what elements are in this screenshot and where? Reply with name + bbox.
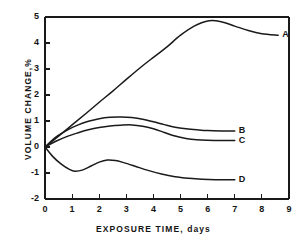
y-tick-label: 2 <box>23 89 39 99</box>
x-axis-title: EXPOSURE TIME, days <box>0 224 307 234</box>
x-tick-label: 0 <box>37 204 53 214</box>
x-tick-label: 2 <box>91 204 107 214</box>
series-label-c: C <box>239 135 246 145</box>
series-label-d: D <box>239 174 246 184</box>
series-line-d <box>45 147 235 180</box>
y-axis-title: VOLUME CHANGE,% <box>23 34 33 184</box>
x-tick-label: 7 <box>227 204 243 214</box>
y-tick-label: 1 <box>23 115 39 125</box>
data-series-group <box>45 21 278 180</box>
y-tick-label: -2 <box>23 193 39 203</box>
y-tick-label: 0 <box>23 141 39 151</box>
series-label-b: B <box>239 125 246 135</box>
y-tick-label: -1 <box>23 167 39 177</box>
series-line-c <box>45 125 235 147</box>
series-line-b <box>45 117 235 147</box>
x-tick-label: 4 <box>145 204 161 214</box>
axis-frame <box>45 17 289 199</box>
x-tick-label: 9 <box>281 204 297 214</box>
x-tick-label: 8 <box>254 204 270 214</box>
x-tick-label: 5 <box>173 204 189 214</box>
series-label-a: A <box>282 29 289 39</box>
x-tick-label: 6 <box>200 204 216 214</box>
volume-change-chart: VOLUME CHANGE,% EXPOSURE TIME, days 0123… <box>0 0 307 240</box>
x-tick-label: 3 <box>118 204 134 214</box>
y-tick-label: 4 <box>23 37 39 47</box>
x-tick-label: 1 <box>64 204 80 214</box>
y-tick-label: 5 <box>23 11 39 21</box>
y-tick-label: 3 <box>23 63 39 73</box>
